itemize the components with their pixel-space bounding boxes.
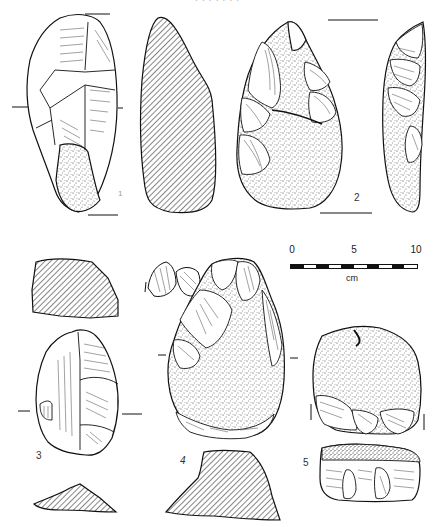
scale-segment <box>291 265 304 268</box>
artifact-2-face <box>237 20 378 213</box>
scale-segment <box>392 265 405 268</box>
scale-tick-5: 5 <box>351 244 357 255</box>
scale-segment <box>329 265 342 268</box>
scale-tick-0: 0 <box>289 244 295 255</box>
artifact-1-face <box>12 14 123 215</box>
artifact-3-face <box>18 330 142 455</box>
scale-bar: 0 5 10 cm <box>288 244 422 284</box>
scale-segment <box>354 265 367 268</box>
artifact-5-face <box>311 326 424 434</box>
scale-segment <box>367 265 380 268</box>
artifact-5-side <box>320 444 420 501</box>
artifact-2-side <box>383 22 426 212</box>
scale-segment <box>341 265 354 268</box>
artifact-3-section-top <box>32 259 118 318</box>
artifact-4-detail <box>145 262 200 297</box>
artifact-1-section <box>141 17 216 212</box>
scale-segment <box>316 265 329 268</box>
figure-label-2: 2 <box>354 193 360 203</box>
figure-label-3: 3 <box>36 451 42 461</box>
artifact-3-section-bottom <box>34 484 116 512</box>
figure-label-4: 4 <box>180 456 186 466</box>
figure-label-1: 1 <box>118 190 122 198</box>
scale-tick-10: 10 <box>410 244 421 255</box>
scale-segment <box>304 265 317 268</box>
figure-label-5: 5 <box>303 458 309 468</box>
scale-segment <box>379 265 392 268</box>
scale-segment <box>404 265 417 268</box>
scale-unit: cm <box>346 273 358 283</box>
scale-bar-segments <box>290 264 418 269</box>
